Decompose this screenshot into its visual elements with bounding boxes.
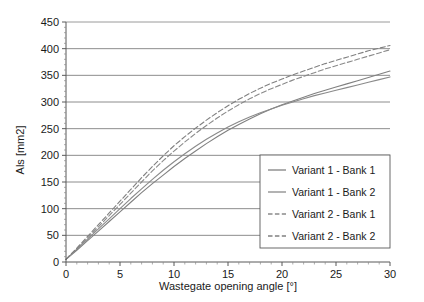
chart-legend: Variant 1 - Bank 1Variant 1 - Bank 2Vari…: [260, 155, 390, 248]
y-tick-label-100: 100: [41, 203, 59, 215]
y-tick-label-450: 450: [41, 16, 59, 28]
line-chart: 050100150200250300350400450 051015202530…: [0, 0, 424, 302]
x-tick-label-10: 10: [168, 268, 180, 280]
chart-background: [0, 0, 424, 302]
legend-label-0: Variant 1 - Bank 1: [292, 164, 375, 176]
x-axis-title: Wastegate opening angle [°]: [159, 280, 297, 292]
y-tick-label-350: 350: [41, 69, 59, 81]
chart-figure: 050100150200250300350400450 051015202530…: [0, 0, 424, 302]
y-tick-label-300: 300: [41, 96, 59, 108]
y-tick-label-200: 200: [41, 149, 59, 161]
y-axis-title: Als [mm2]: [14, 126, 26, 175]
legend-label-3: Variant 2 - Bank 2: [292, 230, 375, 242]
y-tick-label-50: 50: [47, 229, 59, 241]
x-tick-label-20: 20: [276, 268, 288, 280]
x-tick-label-0: 0: [63, 268, 69, 280]
legend-label-1: Variant 1 - Bank 2: [292, 186, 375, 198]
x-tick-label-15: 15: [222, 268, 234, 280]
y-tick-label-0: 0: [53, 256, 59, 268]
y-tick-label-250: 250: [41, 123, 59, 135]
x-tick-label-30: 30: [384, 268, 396, 280]
x-tick-label-25: 25: [330, 268, 342, 280]
y-tick-label-150: 150: [41, 176, 59, 188]
x-tick-label-5: 5: [117, 268, 123, 280]
legend-label-2: Variant 2 - Bank 1: [292, 208, 375, 220]
y-tick-label-400: 400: [41, 43, 59, 55]
